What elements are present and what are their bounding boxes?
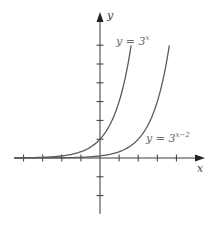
label-3-pow-x-base: y = 3: [115, 35, 145, 48]
label-3-pow-x-exp: x: [145, 34, 149, 42]
exponential-graph: y x y = 3x y = 3x−2: [0, 0, 216, 229]
y-axis-label: y: [106, 9, 114, 22]
x-axis-arrow-icon: [195, 155, 205, 162]
x-axis-label: x: [197, 162, 204, 175]
curve-3-pow-x: [14, 45, 131, 158]
y-axis-arrow-icon: [97, 12, 104, 22]
label-3-pow-x: y = 3x: [115, 34, 149, 48]
label-3-pow-x-minus-2: y = 3x−2: [145, 131, 190, 145]
label-3-pow-x-minus-2-exp: x−2: [175, 131, 190, 139]
label-3-pow-x-minus-2-base: y = 3: [145, 132, 175, 145]
